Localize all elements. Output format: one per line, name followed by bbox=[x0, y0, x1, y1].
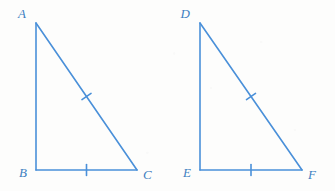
vertex-label-f: F bbox=[307, 167, 317, 182]
vertex-label-c: C bbox=[143, 167, 152, 182]
hypotenuse-ac-tick-mark bbox=[82, 93, 91, 99]
triangles-layer bbox=[36, 23, 302, 176]
vertex-labels-layer: ABCDEF bbox=[17, 6, 317, 182]
vertex-label-b: B bbox=[19, 165, 27, 180]
vertex-label-d: D bbox=[180, 6, 191, 21]
triangle-def bbox=[200, 23, 302, 176]
hypotenuse-df-tick-mark bbox=[246, 93, 255, 99]
vertex-label-a: A bbox=[17, 6, 26, 21]
triangle-abc bbox=[36, 23, 137, 176]
geometry-figure: ABCDEF bbox=[0, 0, 335, 191]
vertex-label-e: E bbox=[182, 165, 191, 180]
